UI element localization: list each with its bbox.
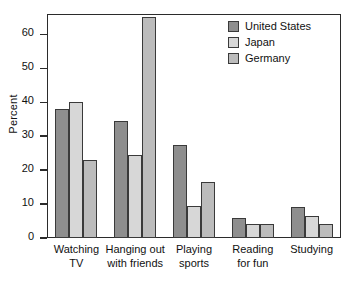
bar (173, 145, 187, 238)
x-axis-label-line: for fun (207, 257, 299, 271)
bar (305, 216, 319, 238)
bar (83, 160, 97, 238)
bar (69, 102, 83, 238)
legend-label: Japan (245, 36, 275, 48)
y-tick-label: 0 (28, 230, 34, 242)
legend: United StatesJapanGermany (228, 19, 311, 67)
y-tick-mark (40, 34, 47, 35)
y-tick-label: 40 (22, 94, 34, 106)
y-tick-label: 60 (22, 26, 34, 38)
y-tick-label: 20 (22, 162, 34, 174)
legend-item: Japan (228, 35, 311, 49)
y-tick-mark (40, 68, 47, 69)
y-tick-label: 10 (22, 196, 34, 208)
legend-label: United States (245, 20, 311, 32)
legend-swatch (228, 53, 239, 64)
legend-item: United States (228, 19, 311, 33)
y-tick-mark (40, 135, 47, 136)
bar (55, 109, 69, 238)
bar-chart: Percent 0102030405060 WatchingTVHanging … (0, 0, 359, 286)
x-axis-label: Studying (266, 243, 358, 257)
y-tick-mark (40, 169, 47, 170)
y-tick-mark (40, 102, 47, 103)
bar (187, 206, 201, 238)
bar (128, 155, 142, 238)
bar (260, 224, 274, 238)
y-tick-label: 30 (22, 128, 34, 140)
bar-group (114, 14, 156, 238)
y-tick-label: 50 (22, 60, 34, 72)
y-tick-mark (40, 203, 47, 204)
bar (319, 224, 333, 238)
bar (114, 121, 128, 238)
y-axis-title: Percent (7, 79, 19, 149)
bar-group (55, 14, 97, 238)
bar (142, 17, 156, 238)
legend-swatch (228, 21, 239, 32)
legend-item: Germany (228, 51, 311, 65)
bar (291, 207, 305, 238)
bar (232, 218, 246, 238)
bar (246, 224, 260, 238)
bar (201, 182, 215, 238)
legend-label: Germany (245, 52, 290, 64)
x-axis-label-line: Studying (266, 243, 358, 257)
legend-swatch (228, 37, 239, 48)
bar-group (173, 14, 215, 238)
y-tick-mark (40, 237, 47, 238)
